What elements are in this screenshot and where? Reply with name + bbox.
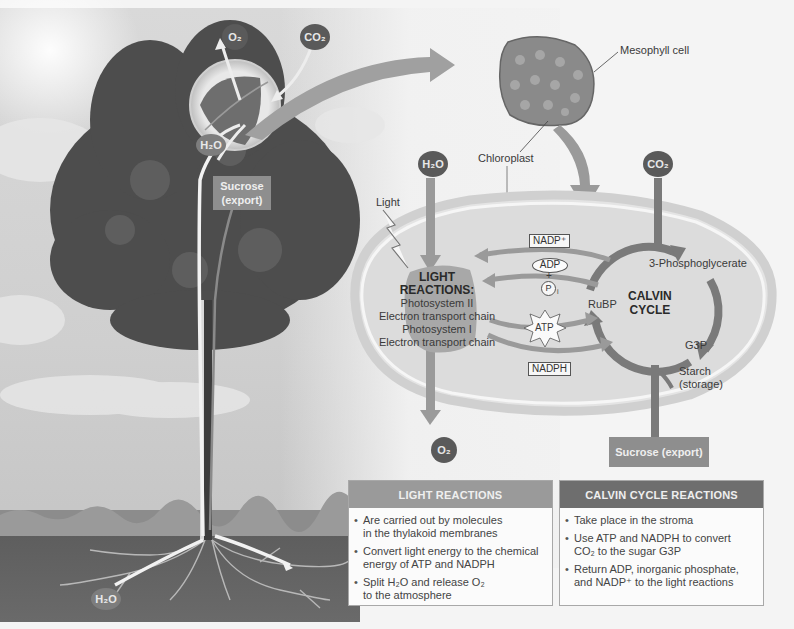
o2-release-node: O₂ bbox=[222, 24, 248, 50]
chloroplast-label: Chloroplast bbox=[478, 152, 534, 164]
phosphate-p: P bbox=[545, 283, 551, 293]
light-reactions-summary: LIGHT REACTIONS Are carried out by molec… bbox=[348, 480, 553, 606]
nadp-plus-label: NADP⁺ bbox=[529, 234, 570, 248]
o2-output-node: O₂ bbox=[431, 437, 457, 463]
sucrose-line1: Sucrose bbox=[213, 179, 271, 193]
bullet-item: Take place in the stroma bbox=[574, 514, 763, 527]
calvin-title-1: CALVIN bbox=[628, 289, 672, 303]
bullet-item: Are carried out by moleculesin the thyla… bbox=[363, 514, 552, 540]
light-reactions-block: LIGHT REACTIONS: Photosystem II Electron… bbox=[362, 271, 512, 349]
phosphate-icon: P bbox=[541, 281, 556, 296]
starch-line1: Starch bbox=[679, 365, 723, 378]
light-reactions-title-2: REACTIONS: bbox=[362, 284, 512, 297]
calvin-title-2: CYCLE bbox=[628, 303, 672, 317]
photosystem-i: Photosystem I bbox=[362, 323, 512, 336]
h2o-leaf-node: H₂O bbox=[196, 134, 226, 156]
calvin-cycle-bullets: Take place in the stroma Use ATP and NAD… bbox=[560, 514, 763, 589]
bullet-item: Use ATP and NADPH to convertCO₂ to the s… bbox=[574, 532, 763, 558]
sucrose-output-tag: Sucrose (export) bbox=[609, 437, 709, 467]
atp-label: ATP bbox=[535, 322, 554, 333]
bullet-item: Return ADP, inorganic phosphate,and NADP… bbox=[574, 563, 763, 589]
bullet-item: Convert light energy to the chemicalener… bbox=[363, 545, 552, 571]
phosphate-subscript: i bbox=[557, 288, 559, 295]
calvin-cycle-title: CALVIN CYCLE bbox=[628, 289, 672, 317]
calvin-cycle-summary: CALVIN CYCLE REACTIONS Take place in the… bbox=[559, 480, 764, 606]
h2o-input-node: H₂O bbox=[418, 151, 448, 177]
electron-transport-chain-2: Electron transport chain bbox=[362, 336, 512, 349]
sucrose-export-tag: Sucrose (export) bbox=[213, 176, 271, 210]
sucrose-line2: (export) bbox=[213, 193, 271, 207]
light-reactions-bullets: Are carried out by moleculesin the thyla… bbox=[349, 514, 552, 602]
electron-transport-chain-1: Electron transport chain bbox=[362, 310, 512, 323]
starch-label: Starch (storage) bbox=[679, 365, 723, 391]
plus-sign: + bbox=[546, 270, 552, 281]
nadph-label: NADPH bbox=[528, 362, 571, 376]
rubp-label: RuBP bbox=[588, 298, 617, 310]
h2o-root-node: H₂O bbox=[91, 588, 121, 610]
3-phosphoglycerate-label: 3-Phosphoglycerate bbox=[649, 257, 747, 269]
calvin-cycle-summary-heading: CALVIN CYCLE REACTIONS bbox=[560, 481, 763, 508]
mesophyll-cell-label: Mesophyll cell bbox=[620, 44, 689, 56]
photosystem-ii: Photosystem II bbox=[362, 297, 512, 310]
light-reactions-summary-heading: LIGHT REACTIONS bbox=[349, 481, 552, 508]
g3p-label: G3P bbox=[685, 339, 707, 351]
light-label: Light bbox=[376, 196, 400, 208]
starch-line2: (storage) bbox=[679, 378, 723, 391]
bullet-item: Split H₂O and release O₂to the atmospher… bbox=[363, 576, 552, 602]
co2-intake-node: CO₂ bbox=[300, 24, 330, 50]
soil bbox=[0, 536, 360, 622]
co2-input-node: CO₂ bbox=[643, 151, 673, 177]
